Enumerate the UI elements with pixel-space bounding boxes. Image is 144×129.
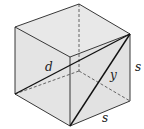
label-d: d: [45, 60, 53, 74]
label-y: y: [109, 68, 117, 82]
label-s-bottom: s: [102, 111, 108, 125]
label-s-right: s: [135, 60, 141, 74]
cube-diagram: d y s s: [0, 0, 144, 129]
